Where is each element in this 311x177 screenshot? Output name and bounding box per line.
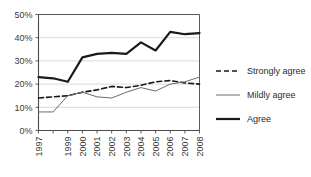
x-tick-label: 2000	[78, 137, 88, 157]
x-tick-label: 2007	[180, 137, 190, 157]
x-tick-label: 2006	[165, 137, 175, 157]
x-tick-label: 2004	[136, 137, 146, 157]
grid-lines	[39, 15, 200, 108]
legend-label: Agree	[247, 114, 271, 124]
chart-svg: 0%10%20%30%40%50% 1997199920002001200220…	[0, 0, 311, 177]
y-tick-label: 50%	[14, 10, 32, 20]
y-tick-label: 0%	[19, 126, 32, 136]
x-tick-label: 2002	[107, 137, 117, 157]
y-tick-label: 10%	[14, 103, 32, 113]
legend-label: Strongly agree	[247, 66, 306, 76]
y-tick-label: 20%	[14, 79, 32, 89]
chart-legend: Strongly agreeMildly agreeAgree	[216, 66, 306, 124]
data-series	[39, 32, 200, 112]
x-tick-label: 1999	[63, 137, 73, 157]
y-axis-labels: 0%10%20%30%40%50%	[14, 10, 32, 136]
x-tick-label: 2005	[151, 137, 161, 157]
line-chart: 0%10%20%30%40%50% 1997199920002001200220…	[0, 0, 311, 177]
x-tick-label: 1997	[34, 137, 44, 157]
series-line	[39, 32, 200, 82]
legend-label: Mildly agree	[247, 90, 296, 100]
x-tick-label: 2001	[92, 137, 102, 157]
series-line	[39, 77, 200, 112]
x-axis-labels: 1997199920002001200220032004200520062007…	[34, 137, 205, 157]
y-tick-label: 30%	[14, 56, 32, 66]
y-tick-label: 40%	[14, 33, 32, 43]
x-tick-label: 2003	[122, 137, 132, 157]
x-tick-label: 2008	[195, 137, 205, 157]
